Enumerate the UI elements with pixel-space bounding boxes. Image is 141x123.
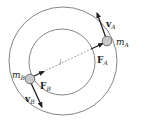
velocity-arrow-a	[97, 13, 106, 38]
label-mass-a: mA	[116, 32, 129, 48]
center-tick	[60, 59, 61, 65]
label-force-b: FB	[40, 76, 51, 92]
orbit-diagram	[0, 0, 141, 123]
label-velocity-b: vB	[25, 89, 35, 105]
label-velocity-a: vA	[106, 14, 116, 30]
label-force-a: FA	[97, 50, 108, 66]
force-arrow-a	[91, 44, 103, 50]
inner-orbit	[29, 29, 95, 95]
mass-a	[102, 36, 112, 46]
mass-b	[25, 74, 35, 84]
label-mass-b: mB	[12, 65, 25, 81]
